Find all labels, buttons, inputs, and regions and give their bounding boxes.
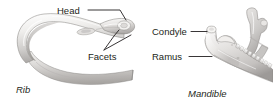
figure-canvas: Head Facets Rib [0,0,273,106]
mandible-condyle-label: Condyle [152,26,187,37]
rib-head-facet-inner [121,23,128,28]
rib-facets-label: Facets [88,51,117,62]
mandible-foramen-small [231,44,233,46]
mandible-ramus-label: Ramus [152,51,182,62]
rib-head-label: Head [57,5,80,16]
mandible-specimen-label: Mandible [188,88,227,99]
mandible-mental-foramen [237,57,240,59]
mandible-near-condyle-facet [209,28,214,31]
mandible-far-condyle [261,20,268,26]
rib-specimen-label: Rib [16,84,30,95]
anatomy-figure: Head Facets Rib [0,0,273,106]
